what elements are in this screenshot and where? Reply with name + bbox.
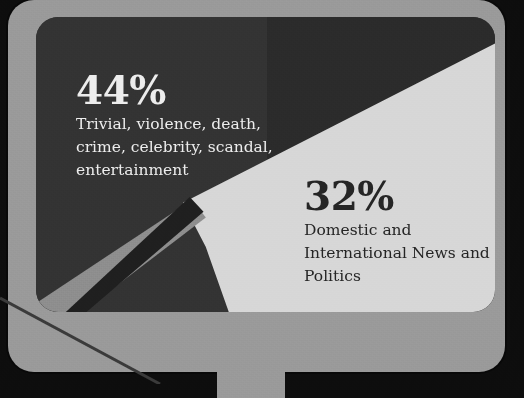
monitor-stand-neck [217, 370, 285, 398]
segment-light-description: Domestic and International News and Poli… [304, 219, 495, 288]
infographic-canvas: 44% Trivial, violence, death, crime, cel… [0, 0, 524, 398]
segment-dark-percent: 44% [76, 69, 291, 111]
segment-label-dark: 44% Trivial, violence, death, crime, cel… [76, 69, 291, 182]
segment-label-light: 32% Domestic and International News and … [304, 175, 495, 288]
segment-light-percent: 32% [304, 175, 495, 217]
monitor-bezel: 44% Trivial, violence, death, crime, cel… [8, 0, 505, 372]
monitor-screen: 44% Trivial, violence, death, crime, cel… [36, 17, 495, 312]
segment-dark-description: Trivial, violence, death, crime, celebri… [76, 113, 291, 182]
